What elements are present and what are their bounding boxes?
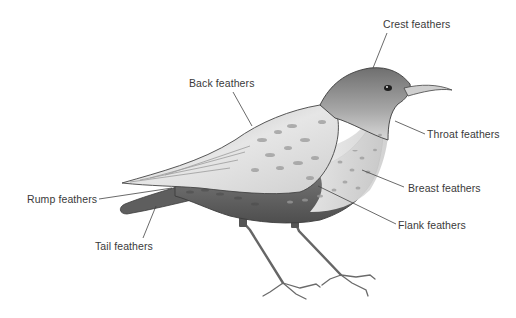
back-leader bbox=[233, 92, 252, 126]
beak bbox=[404, 85, 452, 96]
throat-leader bbox=[395, 121, 425, 134]
wing-shape bbox=[122, 105, 338, 194]
label-breast-feathers: Breast feathers bbox=[408, 182, 481, 194]
label-tail-feathers: Tail feathers bbox=[95, 240, 153, 252]
eye bbox=[384, 85, 392, 91]
bird-illustration bbox=[0, 0, 516, 318]
legs bbox=[243, 222, 341, 283]
label-flank-feathers: Flank feathers bbox=[398, 219, 466, 231]
bird-anatomy-figure: Crest feathers Back feathers Throat feat… bbox=[0, 0, 516, 318]
label-back-feathers: Back feathers bbox=[189, 77, 255, 89]
label-rump-feathers: Rump feathers bbox=[27, 193, 97, 205]
crest-leader bbox=[373, 33, 387, 68]
label-throat-feathers: Throat feathers bbox=[427, 128, 500, 140]
label-crest-feathers: Crest feathers bbox=[383, 18, 450, 30]
